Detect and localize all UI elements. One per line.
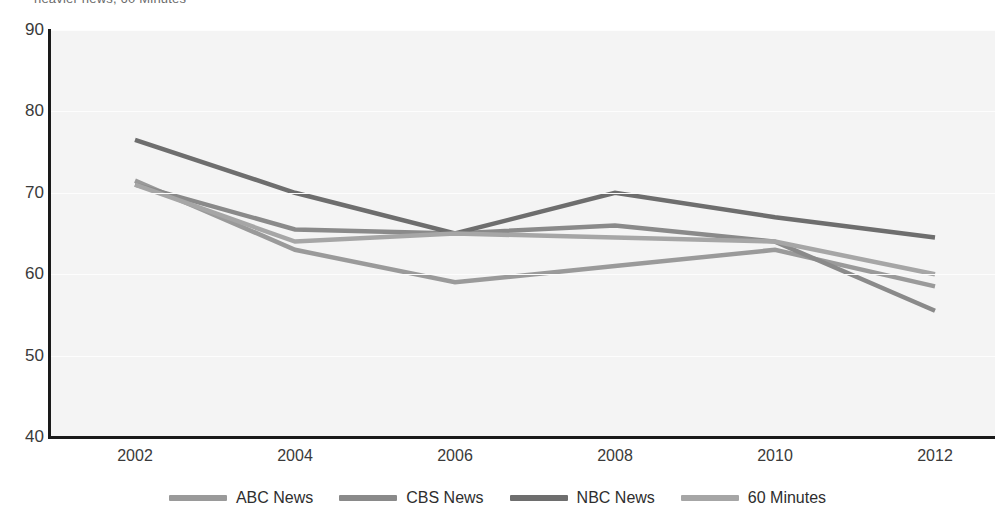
legend-item-abc-news[interactable]: ABC News <box>169 489 313 507</box>
y-tick-label-80: 80 <box>4 101 44 121</box>
line-chart: 908070605040 200220042006200820102012 AB… <box>0 0 995 515</box>
legend-label: CBS News <box>406 489 483 507</box>
chart-legend: ABC NewsCBS NewsNBC News60 Minutes <box>0 487 995 509</box>
legend-item-cbs-news[interactable]: CBS News <box>339 489 483 507</box>
gridline-90 <box>50 30 995 31</box>
legend-swatch-60minutes <box>681 495 739 501</box>
gridline-80 <box>50 111 995 112</box>
x-tick-label-2012: 2012 <box>917 447 953 465</box>
y-tick-label-60: 60 <box>4 264 44 284</box>
series-layer <box>50 30 995 437</box>
y-tick-label-50: 50 <box>4 346 44 366</box>
gridline-50 <box>50 356 995 357</box>
x-axis-tick-labels: 200220042006200820102012 <box>50 447 995 473</box>
x-tick-label-2002: 2002 <box>117 447 153 465</box>
legend-swatch-nbc <box>510 495 568 501</box>
y-axis-line <box>48 29 51 439</box>
legend-swatch-cbs <box>339 495 397 501</box>
legend-swatch-abc <box>169 495 227 501</box>
gridline-70 <box>50 193 995 194</box>
legend-label: 60 Minutes <box>748 489 826 507</box>
y-tick-label-90: 90 <box>4 20 44 40</box>
gridline-60 <box>50 274 995 275</box>
x-tick-label-2004: 2004 <box>277 447 313 465</box>
x-tick-label-2006: 2006 <box>437 447 473 465</box>
legend-label: ABC News <box>236 489 313 507</box>
legend-item-60-minutes[interactable]: 60 Minutes <box>681 489 826 507</box>
x-axis-line <box>48 436 995 439</box>
x-tick-label-2010: 2010 <box>757 447 793 465</box>
plot-area <box>50 30 995 437</box>
legend-label: NBC News <box>577 489 655 507</box>
y-tick-label-40: 40 <box>4 427 44 447</box>
series-line-nbc-news <box>135 140 935 238</box>
legend-item-nbc-news[interactable]: NBC News <box>510 489 655 507</box>
y-tick-label-70: 70 <box>4 183 44 203</box>
y-axis-tick-labels: 908070605040 <box>0 0 44 515</box>
x-tick-label-2008: 2008 <box>597 447 633 465</box>
